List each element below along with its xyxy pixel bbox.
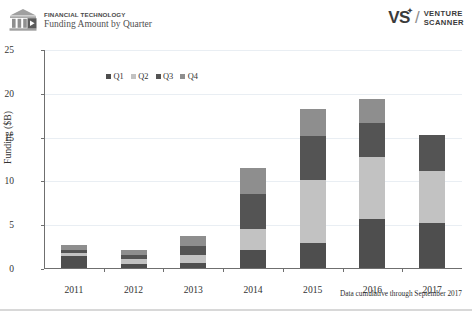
bar-segment-2014-Q3[interactable] bbox=[240, 194, 266, 229]
x-axis-tick-mark bbox=[402, 269, 403, 272]
vs-slash-divider: / bbox=[415, 8, 420, 28]
legend-item-Q2[interactable]: Q2 bbox=[131, 72, 149, 81]
y-axis-tick-label: 15 bbox=[0, 133, 14, 143]
brand-category-label: FINANCIAL TECHNOLOGY bbox=[44, 12, 152, 19]
x-axis-tick-mark bbox=[223, 269, 224, 272]
legend-swatch-Q4 bbox=[180, 74, 185, 79]
page-title: Funding Amount by Quarter bbox=[44, 20, 152, 30]
bar-2015[interactable] bbox=[300, 109, 326, 268]
vs-monogram: VS✦ bbox=[388, 8, 410, 28]
legend-label-Q1: Q1 bbox=[114, 72, 124, 81]
legend-item-Q4[interactable]: Q4 bbox=[180, 72, 198, 81]
financial-technology-branding: FINANCIAL TECHNOLOGY Funding Amount by Q… bbox=[8, 8, 152, 33]
bar-segment-2013-Q2[interactable] bbox=[180, 255, 206, 263]
bar-segment-2014-Q1[interactable] bbox=[240, 250, 266, 268]
bar-segment-2015-Q3[interactable] bbox=[300, 136, 326, 181]
bar-segment-2015-Q2[interactable] bbox=[300, 180, 326, 243]
x-axis-tick-mark bbox=[343, 269, 344, 272]
gridline bbox=[44, 50, 462, 51]
legend-swatch-Q3 bbox=[156, 74, 161, 79]
bar-2016[interactable] bbox=[359, 99, 385, 268]
y-axis-tick-label: 10 bbox=[0, 176, 14, 186]
brand-text-block: FINANCIAL TECHNOLOGY Funding Amount by Q… bbox=[44, 12, 152, 30]
y-axis-tick-label: 25 bbox=[0, 45, 14, 55]
bar-2012[interactable] bbox=[121, 250, 147, 268]
x-axis-tick-label-2014: 2014 bbox=[223, 284, 283, 295]
footer-divider bbox=[0, 309, 472, 311]
gridline bbox=[44, 138, 462, 139]
bar-2014[interactable] bbox=[240, 168, 266, 268]
legend-label-Q3: Q3 bbox=[163, 72, 173, 81]
chart-footnote: Data cumulative through September 2017 bbox=[340, 289, 462, 298]
x-axis-tick-mark bbox=[104, 269, 105, 272]
x-axis-tick-mark bbox=[163, 269, 164, 272]
legend-label-Q4: Q4 bbox=[188, 72, 198, 81]
x-axis-tick-label-2011: 2011 bbox=[44, 284, 104, 295]
bar-2017[interactable] bbox=[419, 135, 445, 268]
bar-segment-2013-Q4[interactable] bbox=[180, 236, 206, 247]
legend-swatch-Q2 bbox=[131, 74, 136, 79]
bar-segment-2011-Q1[interactable] bbox=[61, 256, 87, 268]
bank-building-icon bbox=[8, 8, 38, 33]
x-axis-tick-label-2012: 2012 bbox=[104, 284, 164, 295]
bar-segment-2016-Q1[interactable] bbox=[359, 219, 385, 268]
chart-container: Funding ($B) 0510152025 2011201220132014… bbox=[0, 40, 472, 315]
plot-area: 0510152025 2011201220132014201520162017 … bbox=[44, 50, 462, 269]
page-header: FINANCIAL TECHNOLOGY Funding Amount by Q… bbox=[0, 0, 472, 40]
legend-item-Q1[interactable]: Q1 bbox=[106, 72, 124, 81]
bar-segment-2016-Q4[interactable] bbox=[359, 99, 385, 124]
bar-segment-2017-Q3[interactable] bbox=[419, 135, 445, 171]
bar-segment-2014-Q4[interactable] bbox=[240, 168, 266, 193]
gridline bbox=[44, 94, 462, 95]
vs-wordmark: VENTURE SCANNER bbox=[424, 9, 464, 28]
chart-page: FINANCIAL TECHNOLOGY Funding Amount by Q… bbox=[0, 0, 472, 315]
x-axis-tick-mark bbox=[283, 269, 284, 272]
bar-segment-2013-Q3[interactable] bbox=[180, 246, 206, 255]
bar-segment-2015-Q4[interactable] bbox=[300, 109, 326, 135]
bar-segment-2017-Q1[interactable] bbox=[419, 223, 445, 268]
legend-label-Q2: Q2 bbox=[138, 72, 148, 81]
legend-item-Q3[interactable]: Q3 bbox=[156, 72, 174, 81]
vs-wordmark-line1: VENTURE bbox=[424, 9, 464, 18]
x-axis-tick-label-2015: 2015 bbox=[283, 284, 343, 295]
x-axis-tick-label-2013: 2013 bbox=[163, 284, 223, 295]
bar-segment-2014-Q2[interactable] bbox=[240, 229, 266, 251]
bar-segment-2016-Q2[interactable] bbox=[359, 157, 385, 219]
bar-2013[interactable] bbox=[180, 236, 206, 268]
y-axis-tick-label: 0 bbox=[0, 264, 14, 274]
venture-scanner-logo: VS✦ / VENTURE SCANNER bbox=[388, 8, 464, 28]
bar-segment-2016-Q3[interactable] bbox=[359, 123, 385, 156]
y-axis-tick-label: 20 bbox=[0, 89, 14, 99]
vs-star-icon: ✦ bbox=[407, 7, 413, 15]
y-axis-tick-label: 5 bbox=[0, 220, 14, 230]
bar-segment-2017-Q2[interactable] bbox=[419, 171, 445, 224]
legend-swatch-Q1 bbox=[106, 74, 111, 79]
y-axis-line bbox=[44, 50, 45, 269]
bar-segment-2015-Q1[interactable] bbox=[300, 243, 326, 268]
chart-legend: Q1Q2Q3Q4 bbox=[106, 72, 198, 81]
bar-2011[interactable] bbox=[61, 245, 87, 268]
vs-wordmark-line2: SCANNER bbox=[424, 18, 464, 27]
y-axis-tick-mark bbox=[41, 269, 44, 270]
x-axis-line bbox=[44, 268, 462, 269]
